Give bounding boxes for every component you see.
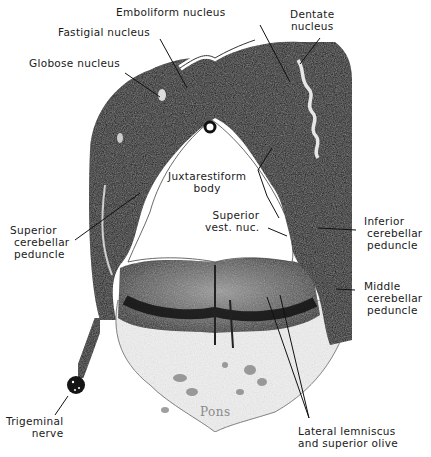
label-middle-cerebellar-line-2: cerebellar	[364, 292, 423, 304]
label-trigeminal-line-1: Trigeminal	[6, 415, 63, 427]
trigeminal-nerve-root	[78, 318, 100, 378]
label-inferior-cerebellar-peduncle: Inferior cerebellar peduncle	[364, 215, 423, 251]
pontine-tegmentum	[118, 258, 320, 334]
label-trigeminal-line-2: nerve	[6, 427, 63, 439]
label-superior-cerebellar-peduncle: Superior cerebellar peduncle	[10, 224, 70, 260]
label-pons: Pons	[200, 405, 231, 419]
label-emboliform-nucleus: Emboliform nucleus	[116, 6, 226, 18]
label-dentate-nucleus: Dentate nucleus	[290, 8, 334, 32]
figure-stage: Emboliform nucleus Fastigial nucleus Glo…	[0, 0, 431, 457]
label-juxtarestiform-line-1: Juxtarestiform	[168, 170, 246, 182]
label-middle-cerebellar-line-3: peduncle	[364, 304, 423, 316]
label-globose-nucleus: Globose nucleus	[29, 57, 120, 69]
label-superior-cerebellar-line-3: peduncle	[10, 248, 70, 260]
label-fastigial-nucleus: Fastigial nucleus	[58, 26, 150, 38]
label-juxtarestiform-body: Juxtarestiform body	[168, 170, 246, 194]
label-lateral-lemniscus-superior-olive: Lateral lemniscus and superior olive	[298, 425, 398, 449]
leader-trigeminal	[55, 396, 68, 415]
label-superior-vestibular-nucleus: Superior vest. nuc.	[205, 209, 259, 233]
label-superior-vest-line-2: vest. nuc.	[205, 221, 259, 233]
label-fastigial-line-1: Fastigial nucleus	[58, 26, 150, 38]
trigeminal-nerve-stump	[67, 376, 85, 394]
label-middle-cerebellar-peduncle: Middle cerebellar peduncle	[364, 280, 423, 316]
label-lateral-lemniscus-line-2: and superior olive	[298, 437, 398, 449]
label-inferior-cerebellar-line-2: cerebellar	[364, 227, 423, 239]
label-trigeminal-nerve: Trigeminal nerve	[6, 415, 63, 439]
label-inferior-cerebellar-line-3: peduncle	[364, 239, 423, 251]
label-middle-cerebellar-line-1: Middle	[364, 280, 423, 292]
label-globose-line-1: Globose nucleus	[29, 57, 120, 69]
label-emboliform-line-1: Emboliform nucleus	[116, 6, 226, 18]
label-dentate-line-1: Dentate	[290, 8, 334, 20]
label-juxtarestiform-line-2: body	[168, 182, 246, 194]
label-dentate-line-2: nucleus	[290, 20, 334, 32]
label-inferior-cerebellar-line-1: Inferior	[364, 215, 423, 227]
label-lateral-lemniscus-line-1: Lateral lemniscus	[298, 425, 398, 437]
label-superior-cerebellar-line-2: cerebellar	[10, 236, 70, 248]
label-superior-cerebellar-line-1: Superior	[10, 224, 70, 236]
label-superior-vest-line-1: Superior	[205, 209, 259, 221]
